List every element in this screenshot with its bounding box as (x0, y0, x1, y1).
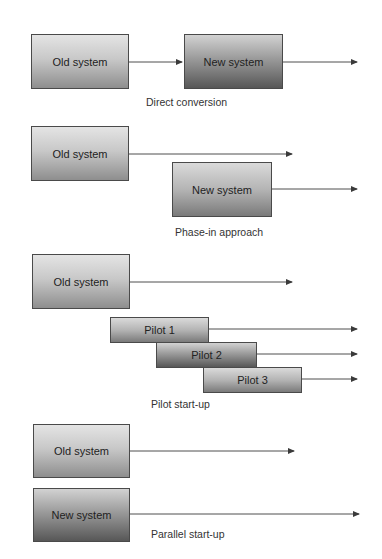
box-label: Pilot 3 (237, 374, 268, 386)
new-system-box: New system (184, 34, 283, 89)
old-system-box: Old system (33, 424, 130, 478)
box-label: New system (52, 509, 112, 521)
box-label: New system (192, 184, 252, 196)
box-label: Old system (52, 148, 107, 160)
box-label: Old system (52, 56, 107, 68)
pilot-2-box: Pilot 2 (156, 342, 257, 368)
old-system-box: Old system (31, 34, 129, 89)
old-system-box: Old system (32, 254, 130, 309)
caption-phase-in: Phase-in approach (175, 226, 263, 238)
box-label: Pilot 2 (191, 349, 222, 361)
caption-pilot-start-up: Pilot start-up (151, 398, 210, 410)
caption-parallel-start-up: Parallel start-up (151, 528, 225, 540)
box-label: New system (204, 56, 264, 68)
new-system-box: New system (33, 488, 130, 542)
pilot-3-box: Pilot 3 (203, 367, 302, 393)
box-label: Old system (53, 276, 108, 288)
box-label: Old system (54, 445, 109, 457)
pilot-1-box: Pilot 1 (110, 317, 209, 343)
old-system-box: Old system (31, 126, 129, 181)
caption-direct-conversion: Direct conversion (146, 96, 227, 108)
box-label: Pilot 1 (144, 324, 175, 336)
new-system-box: New system (172, 162, 272, 217)
